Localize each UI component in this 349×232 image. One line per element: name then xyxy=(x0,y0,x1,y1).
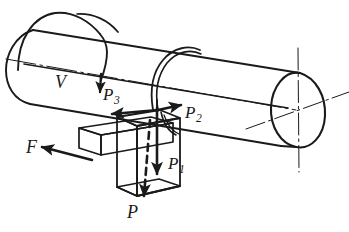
label-radial-force-subscript: 2 xyxy=(195,112,201,125)
label-feed-force: F xyxy=(26,138,37,156)
label-tangential-force: P1 xyxy=(168,155,185,175)
label-radial-force: P2 xyxy=(185,104,202,124)
label-axial-force-subscript: 3 xyxy=(113,94,119,107)
label-cutting-speed: V xyxy=(55,73,66,91)
workpiece-cylinder xyxy=(6,30,325,147)
rotation-direction-arrow xyxy=(100,74,101,92)
cutting-force-diagram: V F P3 P2 P1 P xyxy=(0,0,349,232)
axis-centerline xyxy=(6,59,296,110)
label-resultant-force: P xyxy=(127,203,138,221)
label-axial-force: P3 xyxy=(103,86,120,106)
label-tangential-force-subscript: 1 xyxy=(178,163,184,176)
force-arrow-p-resultant xyxy=(144,120,150,196)
force-arrow-p2 xyxy=(158,105,181,110)
diagram-canvas xyxy=(0,0,349,232)
